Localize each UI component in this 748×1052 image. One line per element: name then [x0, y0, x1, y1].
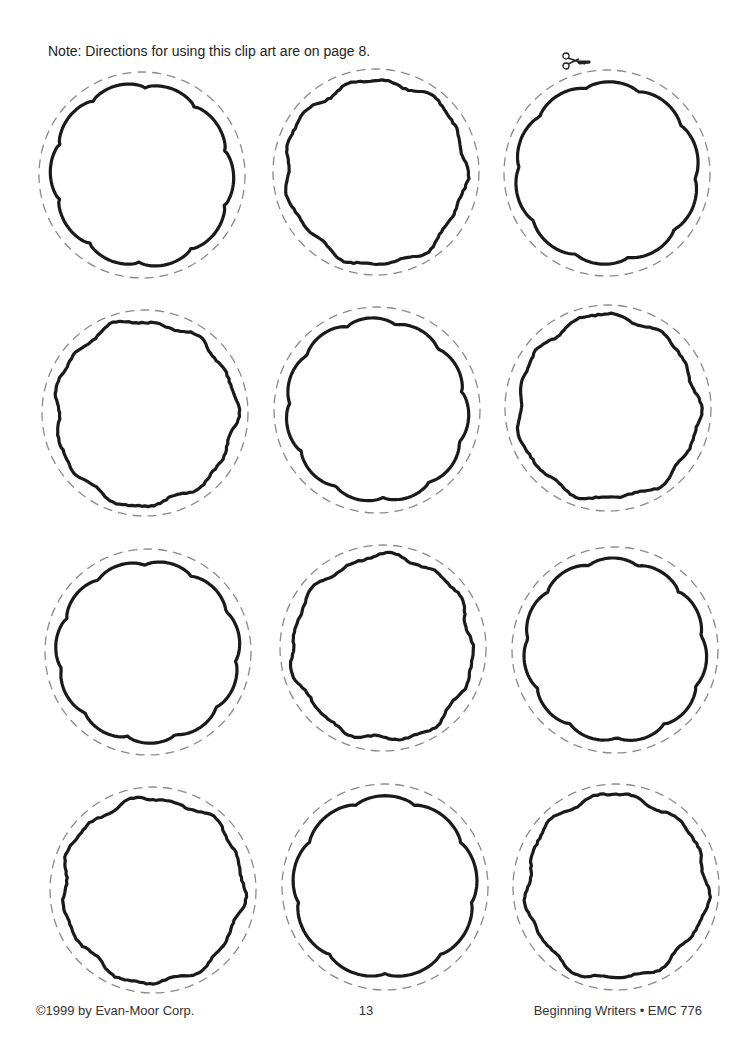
scalloped-frame-outline: [524, 558, 707, 740]
circle-frame-r1c2: [273, 69, 479, 275]
circle-frame-r3c2: [280, 545, 486, 751]
series-label: Beginning Writers • EMC 776: [534, 1003, 702, 1018]
scalloped-frame-outline: [516, 82, 698, 264]
scalloped-frame-outline: [50, 84, 233, 266]
scalloped-frame-outline: [56, 562, 240, 743]
wobbly-frame-outline: [63, 797, 247, 984]
circle-frame-r1c3: [504, 70, 710, 276]
circle-frame-r3c3: [512, 547, 718, 753]
circle-frame-r3c1: [45, 549, 251, 755]
circle-frame-r4c1: [50, 787, 256, 993]
circle-frame-r2c1: [42, 310, 248, 516]
circle-frame-r2c3: [505, 305, 711, 511]
circle-frame-r1c1: [39, 72, 245, 278]
circle-frame-r2c2: [274, 307, 480, 513]
frame-grid: [39, 69, 719, 993]
wobbly-frame-outline: [55, 321, 240, 506]
wobbly-frame-outline: [517, 313, 702, 499]
scissors-icon: [563, 53, 590, 69]
circle-frame-r4c2: [282, 784, 488, 990]
scalloped-frame-outline: [293, 796, 477, 976]
wobbly-frame-outline: [291, 552, 474, 740]
wobbly-frame-outline: [286, 80, 469, 265]
wobbly-frame-outline: [524, 794, 710, 978]
clip-art-sheet: [0, 0, 748, 1052]
circle-frame-r4c3: [513, 784, 719, 990]
scalloped-frame-outline: [287, 318, 469, 501]
